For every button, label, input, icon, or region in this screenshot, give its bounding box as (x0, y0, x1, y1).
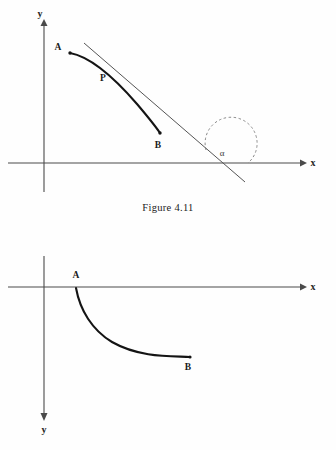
x-axis-label: x (311, 157, 316, 168)
x-axis-arrow-icon (300, 284, 307, 291)
point-b-marker (188, 355, 191, 358)
x-axis-label: x (311, 281, 316, 292)
page-canvas: y x A P B α Figure 4.11 y x A B (0, 0, 336, 450)
angle-arc-alpha (205, 117, 257, 163)
point-a-marker (68, 51, 71, 54)
figure-caption-one: Figure 4.11 (0, 202, 336, 213)
figure-lower: y x A B (0, 228, 336, 450)
y-axis-arrow-icon (41, 413, 48, 421)
point-label-a: A (73, 270, 80, 280)
x-axis-arrow-icon (300, 160, 307, 167)
curve-ab (70, 53, 160, 133)
figure-4-11-diagram: y x A P B α (0, 0, 336, 200)
y-axis-label: y (42, 424, 47, 435)
angle-label-alpha: α (220, 148, 225, 158)
point-b-marker (158, 131, 161, 134)
curve-ab (76, 288, 190, 357)
point-label-b: B (155, 140, 162, 150)
tangent-line (84, 43, 245, 182)
point-label-p: P (100, 73, 106, 83)
figure-lower-diagram: y x A B (0, 228, 336, 450)
y-axis-label: y (38, 8, 43, 19)
point-label-b: B (185, 362, 192, 372)
figure-4-11: y x A P B α Figure 4.11 (0, 0, 336, 228)
y-axis-arrow-icon (41, 19, 48, 26)
point-label-a: A (55, 42, 62, 52)
